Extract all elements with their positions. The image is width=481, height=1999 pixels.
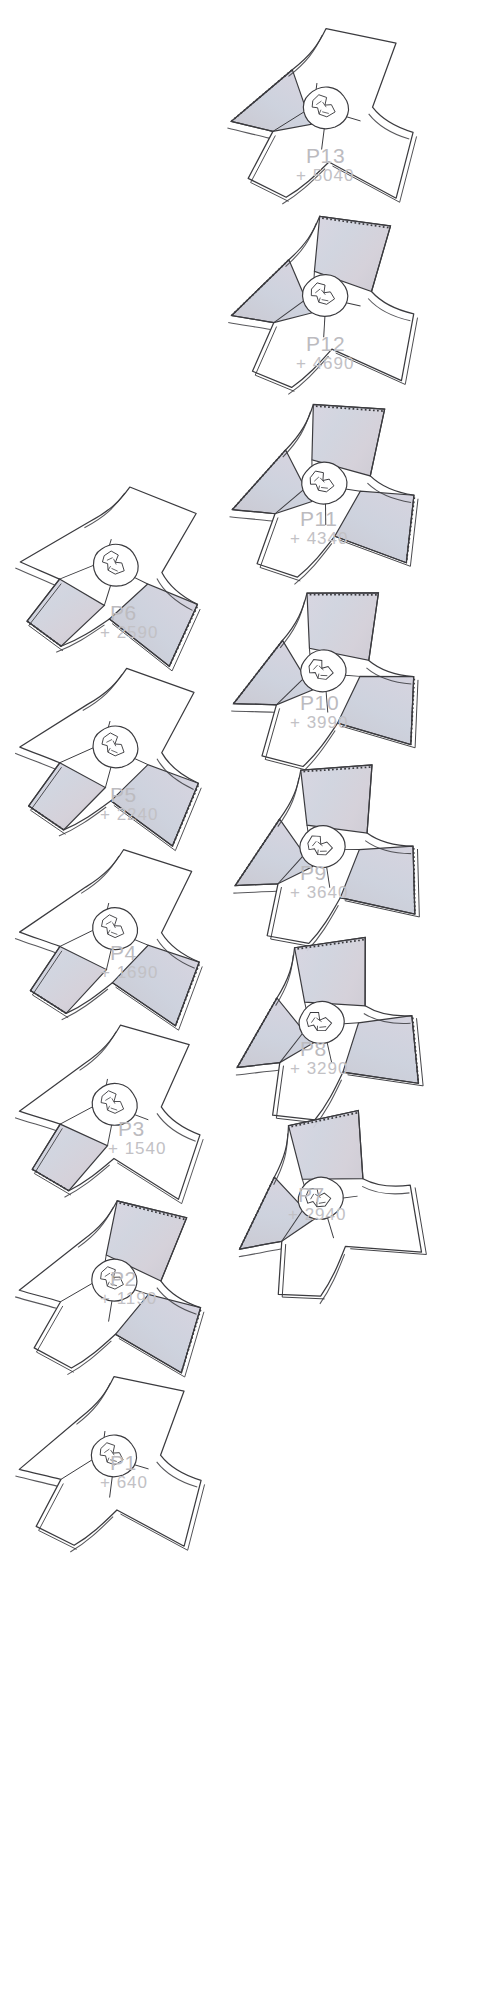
plate-spoke-1	[60, 1283, 93, 1301]
plate-level-p13: P13	[306, 145, 354, 166]
plate-elevation-p2: + 1190	[100, 1290, 157, 1307]
plate-slab-edge-2	[261, 1240, 325, 1316]
plate-label-p7: P7+ 2940	[298, 1184, 346, 1223]
plate-facade-curve-3	[68, 1517, 115, 1552]
plate-facade-curve-2	[157, 1459, 198, 1490]
plate-label-p2: P2+ 1190	[110, 1268, 157, 1307]
plate-label-p4: P4+ 1690	[110, 942, 158, 981]
plate-wing-west	[225, 258, 312, 329]
plate-elevation-p6: + 2590	[100, 624, 158, 641]
plate-elevation-p8: + 3290	[290, 1060, 348, 1077]
plate-facade-curve-4	[15, 1295, 56, 1309]
plate-level-p5: P5	[110, 784, 158, 805]
plate-level-p12: P12	[306, 333, 354, 354]
plate-level-p10: P10	[300, 692, 348, 713]
plate-spoke-1	[60, 562, 94, 582]
plate-elevation-p7: + 2940	[288, 1206, 346, 1223]
plate-elevation-p11: + 4340	[290, 530, 348, 547]
plate-facade-curve-4	[15, 1118, 56, 1131]
plate-facade-curve-1	[80, 1032, 117, 1071]
plate-label-p10: P10+ 3990	[300, 692, 348, 731]
plate-spoke-1	[60, 1107, 92, 1124]
plate-elevation-p10: + 3990	[290, 714, 348, 731]
plate-label-p3: P3+ 1540	[118, 1118, 166, 1157]
plate-elevation-p13: + 5040	[296, 167, 354, 184]
plate-slab-edge-2	[247, 135, 288, 204]
plate-wing-south	[27, 761, 107, 833]
plate-label-p9: P9+ 3640	[300, 862, 348, 901]
plate-slab-edge	[119, 1484, 209, 1554]
plate-level-p1: P1	[110, 1452, 148, 1473]
plate-elevation-p3: + 1540	[108, 1140, 166, 1157]
plate-facade-curve-4	[14, 753, 56, 769]
plate-label-p6: P6+ 2590	[110, 602, 158, 641]
plate-label-p13: P13+ 5040	[306, 145, 354, 184]
plate-level-p3: P3	[118, 1118, 166, 1139]
plate-elevation-p1: + 640	[100, 1474, 148, 1491]
plate-level-p2: P2	[110, 1268, 157, 1289]
plate-level-p6: P6	[110, 602, 158, 623]
plate-level-p8: P8	[300, 1038, 348, 1059]
plate-facade-curve-1	[84, 489, 124, 531]
plate-facade-curve-2	[368, 293, 410, 326]
plate-wing-south	[25, 576, 107, 650]
plate-elevation-p12: + 4690	[296, 355, 354, 372]
plate-elevation-p9: + 3640	[290, 884, 348, 901]
plate-level-p9: P9	[300, 862, 348, 883]
plate-facade-curve-4	[15, 938, 56, 952]
plate-label-p1: P1+ 640	[110, 1452, 148, 1491]
plate-wing-west	[228, 69, 312, 135]
plate-level-p11: P11	[300, 508, 348, 529]
plate-facade-curve-2	[369, 111, 410, 142]
plate-elevation-p4: + 1690	[100, 964, 158, 981]
plate-level-p7: P7	[298, 1184, 346, 1205]
plate-level-p4: P4	[110, 942, 158, 963]
plate-label-p11: P11+ 4340	[300, 508, 348, 547]
plate-spoke-1	[60, 746, 93, 765]
plate-slab-edge	[339, 1187, 445, 1284]
plate-facade-curve-4	[14, 568, 56, 585]
plate-label-p12: P12+ 4690	[306, 333, 354, 372]
plate-wing-south	[30, 945, 108, 1014]
plate-facade-curve-1	[83, 672, 122, 713]
plate-label-p5: P5+ 2240	[110, 784, 158, 823]
plate-facade-curve-4	[15, 1473, 57, 1489]
plate-wing-south	[32, 1124, 107, 1191]
plate-slab-edge-2	[251, 516, 301, 589]
plate-spoke-1	[60, 1460, 93, 1479]
drawing-sheet: P13+ 5040P12+ 4690P11+ 4340P10+ 3990P9+ …	[0, 0, 481, 1999]
plate-slab-edge-2	[35, 1483, 76, 1552]
plate-label-p8: P8+ 3290	[300, 1038, 348, 1077]
plate-spoke-1	[60, 929, 93, 947]
plate-facade-curve-2	[362, 1168, 409, 1211]
plate-facade-curve-1	[81, 855, 119, 895]
plate-elevation-p5: + 2240	[100, 806, 158, 823]
